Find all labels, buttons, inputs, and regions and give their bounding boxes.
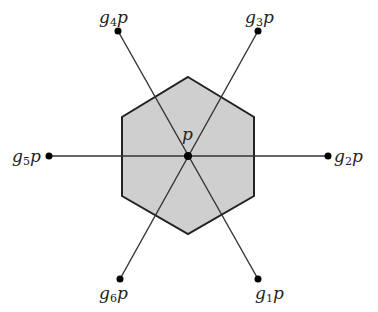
- label-g3p: g3p: [245, 9, 274, 28]
- point-g1p: [255, 276, 262, 283]
- label-g2p: g2p: [334, 148, 363, 167]
- center-label: p: [182, 126, 193, 143]
- point-g2p: [325, 153, 332, 160]
- center-point: [184, 152, 192, 160]
- label-g4p: g4p: [99, 9, 128, 28]
- point-g6p: [117, 276, 124, 283]
- label-g6p: g6p: [99, 285, 128, 304]
- point-g5p: [46, 153, 53, 160]
- label-g5p: g5p: [12, 148, 41, 167]
- label-g1p: g1p: [255, 285, 284, 304]
- hexagon-orbit-diagram: [0, 0, 378, 312]
